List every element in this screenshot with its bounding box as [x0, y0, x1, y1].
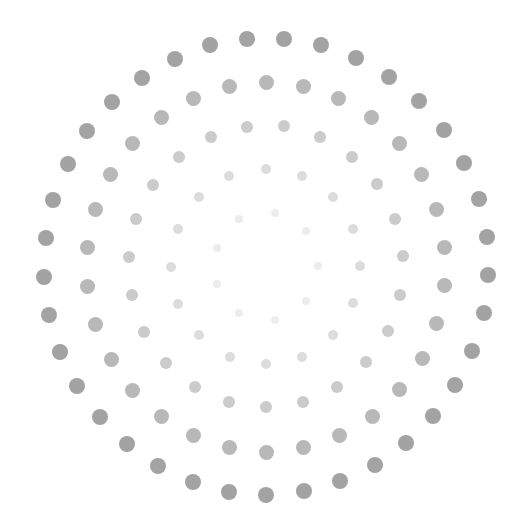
dot — [147, 179, 159, 191]
dot — [429, 202, 444, 217]
dot — [41, 307, 57, 323]
dot — [456, 155, 472, 171]
dot — [224, 171, 234, 181]
dot — [296, 483, 312, 499]
dot — [429, 316, 444, 331]
dot — [328, 330, 338, 340]
dot — [189, 381, 201, 393]
dot — [348, 50, 364, 66]
dot — [278, 120, 290, 132]
dot — [235, 215, 243, 223]
dot — [259, 75, 274, 90]
dot — [331, 91, 346, 106]
dot — [80, 279, 95, 294]
dot — [302, 297, 310, 305]
dot — [332, 473, 348, 489]
dot — [397, 250, 409, 262]
dot — [45, 192, 61, 208]
dot — [302, 227, 310, 235]
dot — [392, 136, 407, 151]
dot-circle-graphic — [0, 0, 523, 525]
dot — [258, 487, 274, 503]
dot — [125, 383, 140, 398]
dot — [104, 352, 119, 367]
dot — [88, 317, 103, 332]
dot — [223, 396, 235, 408]
dot — [241, 121, 253, 133]
dot — [415, 351, 430, 366]
dot — [332, 428, 347, 443]
dot — [425, 408, 441, 424]
dot — [79, 123, 95, 139]
dot — [447, 377, 463, 393]
dot — [69, 378, 85, 394]
dot — [314, 131, 326, 143]
dot — [392, 382, 407, 397]
dot — [476, 305, 492, 321]
dot — [213, 280, 221, 288]
dot — [271, 209, 279, 217]
dot — [88, 202, 103, 217]
dot — [411, 93, 427, 109]
dot — [398, 435, 414, 451]
dot — [154, 110, 169, 125]
dot — [479, 229, 495, 245]
dot — [194, 192, 204, 202]
dot — [138, 326, 150, 338]
dot — [297, 396, 309, 408]
dot — [297, 352, 307, 362]
dot — [464, 343, 480, 359]
dot — [261, 164, 271, 174]
dot — [222, 79, 237, 94]
dot — [173, 299, 183, 309]
dot — [126, 289, 138, 301]
dot — [364, 110, 379, 125]
dot — [134, 70, 150, 86]
dot — [261, 359, 271, 369]
dot — [239, 31, 255, 47]
dot — [221, 484, 237, 500]
dot — [437, 240, 452, 255]
dot — [130, 213, 142, 225]
dot — [371, 178, 383, 190]
dot — [436, 122, 452, 138]
dot — [150, 458, 166, 474]
dot — [348, 298, 358, 308]
dot — [271, 316, 279, 324]
dot — [437, 278, 452, 293]
dot — [154, 409, 169, 424]
dot — [213, 244, 221, 252]
dot — [296, 79, 311, 94]
dot — [92, 409, 108, 425]
dot — [80, 240, 95, 255]
dot — [52, 344, 68, 360]
dot — [389, 213, 401, 225]
dot — [260, 401, 272, 413]
dot — [346, 151, 358, 163]
dot — [173, 224, 183, 234]
dot — [160, 357, 172, 369]
dot — [222, 440, 237, 455]
dot — [360, 356, 372, 368]
dot — [365, 409, 380, 424]
dot — [414, 167, 429, 182]
dot — [119, 436, 135, 452]
dot — [276, 31, 292, 47]
dot — [296, 440, 311, 455]
dot — [394, 289, 406, 301]
dot — [314, 262, 322, 270]
dot — [225, 352, 235, 362]
dot — [331, 381, 343, 393]
dot — [38, 230, 54, 246]
dot — [104, 94, 120, 110]
dot — [313, 37, 329, 53]
dot — [167, 51, 183, 67]
dot — [348, 224, 358, 234]
dot — [480, 267, 496, 283]
dot — [382, 325, 394, 337]
dot — [297, 171, 307, 181]
dot — [328, 192, 338, 202]
dot — [194, 330, 204, 340]
dot — [166, 262, 176, 272]
dot — [123, 251, 135, 263]
